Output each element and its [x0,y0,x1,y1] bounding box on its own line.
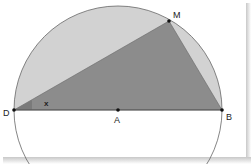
label-a: A [114,115,120,125]
label-d: D [3,108,10,118]
geometry-diagram: D A B M x [0,0,251,164]
point-d [12,108,16,112]
point-m [167,19,171,23]
label-angle-x: x [44,99,49,108]
point-b [220,108,224,112]
point-a [116,108,120,112]
label-b: B [226,112,232,122]
label-m: M [173,10,181,20]
